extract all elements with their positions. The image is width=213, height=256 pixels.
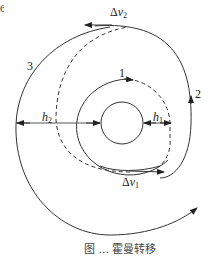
figure-caption: 图 ... 霍曼转移 <box>84 240 156 256</box>
delta-v1-label: Δv1 <box>122 176 139 192</box>
orbit-2-curve <box>95 25 191 178</box>
h2-label: h2 <box>42 111 52 127</box>
delta-v2-label: Δv2 <box>110 6 127 22</box>
transfer-ellipse-dashed <box>56 27 130 172</box>
orbit-3-label: 3 <box>27 60 33 72</box>
orbit-2-label: 2 <box>195 88 201 100</box>
planet-circle <box>101 102 143 144</box>
transfer-lower-arc <box>100 166 160 171</box>
delta-v1-arrow <box>130 171 164 172</box>
h1-label: h1 <box>153 111 163 127</box>
orbit-3-curve <box>16 27 197 235</box>
orbit-1-label: 1 <box>119 67 125 79</box>
edge-mark: 6 <box>0 2 4 14</box>
